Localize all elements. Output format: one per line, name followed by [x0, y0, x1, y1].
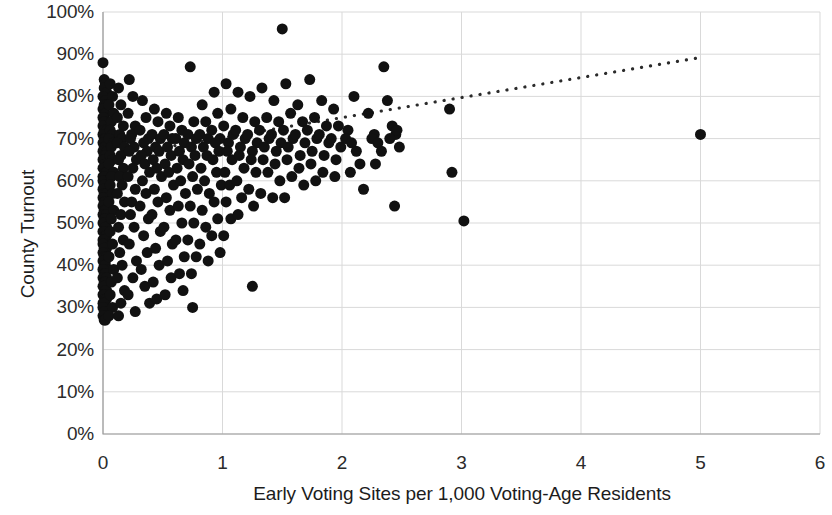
y-axis-tick: 90% [18, 43, 94, 65]
x-axis-tick: 2 [337, 452, 347, 474]
x-axis-tick: 5 [695, 452, 705, 474]
x-axis-tick: 4 [576, 452, 586, 474]
scatter-chart: 0%10%20%30%40%50%60%70%80%90%100% 012345… [0, 0, 832, 515]
y-axis-tick: 100% [18, 1, 94, 23]
y-axis-tick: 10% [18, 381, 94, 403]
x-axis-tick: 3 [456, 452, 466, 474]
x-axis-tick: 1 [217, 452, 227, 474]
y-axis-tick: 80% [18, 85, 94, 107]
x-axis-title: Early Voting Sites per 1,000 Voting-Age … [103, 483, 821, 505]
x-axis-tick: 6 [815, 452, 825, 474]
y-axis-title: County Turnout [17, 124, 39, 344]
x-axis-tick: 0 [98, 452, 108, 474]
y-axis-tick: 0% [18, 423, 94, 445]
data-points [98, 23, 707, 325]
chart-plot-area [0, 0, 832, 515]
